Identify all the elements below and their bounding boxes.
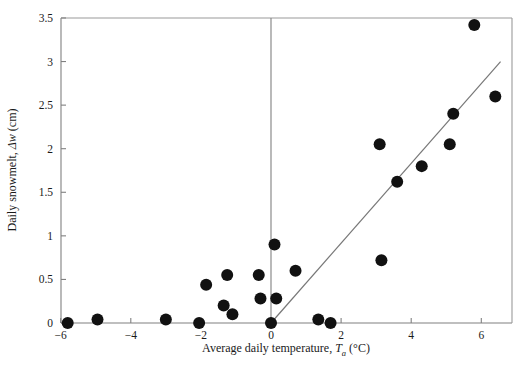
y-tick-label: 3.5 [39, 12, 54, 24]
data-point [468, 19, 480, 31]
data-point [325, 317, 337, 329]
data-point [160, 314, 172, 326]
x-tick-label: 2 [338, 329, 344, 341]
data-point [218, 300, 230, 312]
data-point [193, 317, 205, 329]
data-point [62, 317, 74, 329]
data-point [375, 254, 387, 266]
y-tick-label: 3 [47, 56, 53, 68]
data-point [447, 108, 459, 120]
data-point [221, 269, 233, 281]
data-point [416, 160, 428, 172]
y-tick-label: 0.5 [39, 273, 54, 285]
x-axis-title: Average daily temperature, Ta (°C) [202, 341, 370, 358]
y-tick-label: 2.5 [39, 99, 54, 111]
y-tick-label: 1 [47, 230, 53, 242]
data-point [374, 138, 386, 150]
data-point [391, 176, 403, 188]
data-point [226, 308, 238, 320]
chart-canvas: 00.511.522.533.5−6−4−20246 Average daily… [0, 0, 530, 372]
data-point [269, 239, 281, 251]
y-axis-title: Daily snowmelt, Δw (cm) [5, 108, 19, 231]
data-point [265, 317, 277, 329]
x-tick-label: 0 [268, 329, 274, 341]
tick-labels: 00.511.522.533.5−6−4−20246 [39, 12, 485, 341]
data-point [312, 314, 324, 326]
x-tick-label: −4 [125, 329, 137, 341]
plot-frame [61, 18, 512, 323]
regression-fit-line [271, 62, 501, 323]
x-tick-label: 6 [478, 329, 484, 341]
x-tick-label: −2 [195, 329, 207, 341]
y-tick-label: 1.5 [39, 186, 54, 198]
data-point [254, 293, 266, 305]
data-point [270, 293, 282, 305]
y-tick-label: 2 [47, 143, 53, 155]
data-point [253, 269, 265, 281]
y-tick-label: 0 [47, 317, 53, 329]
trend-line [271, 62, 501, 323]
x-tick-label: −6 [55, 329, 67, 341]
data-points [62, 19, 502, 329]
data-point [489, 90, 501, 102]
data-point [200, 279, 212, 291]
data-point [444, 138, 456, 150]
data-point [92, 314, 104, 326]
data-point [290, 265, 302, 277]
scatter-chart-figure: 00.511.522.533.5−6−4−20246 Average daily… [0, 0, 530, 372]
x-tick-label: 4 [408, 329, 414, 341]
